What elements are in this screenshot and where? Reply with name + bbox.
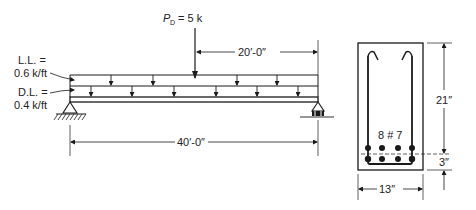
live-load-label-line2: 0.6 k/ft [14, 67, 47, 79]
stirrup-hook-left [368, 52, 378, 61]
dim-bottom-cover: 3″ [439, 156, 449, 168]
rebar-label: 8 # 7 [378, 129, 402, 141]
point-load-value: = 5 k [178, 12, 203, 24]
dim-width: 13″ [379, 183, 395, 195]
roller-support-icon [300, 102, 334, 117]
live-load-label-line1: L.L. = [18, 54, 46, 66]
dead-load-label-line1: D.L. = [18, 86, 48, 98]
dim-point-load-location: 20′-0″ [238, 46, 266, 58]
beam-cross-section: 8 # 7 21″ 3″ 13″ [358, 43, 452, 200]
point-load-subscript: D [170, 19, 175, 26]
stirrup-hook-right [402, 52, 412, 61]
dead-load-label-line2: 0.4 k/ft [14, 99, 47, 111]
beam-member [70, 97, 318, 102]
stirrup [368, 56, 412, 164]
dim-span: 40′-0″ [177, 136, 205, 148]
beam-diagram: P D = 5 k 20′-0″ L.L. = 0.6 k/ft D.L. = … [0, 0, 476, 210]
live-load-arrows [111, 75, 277, 85]
pin-support-icon [54, 102, 86, 120]
dead-load-arrows [91, 86, 298, 96]
beam-elevation: P D = 5 k 20′-0″ L.L. = 0.6 k/ft D.L. = … [14, 12, 334, 156]
dim-effective-depth: 21″ [436, 94, 452, 106]
rebars [365, 145, 415, 162]
